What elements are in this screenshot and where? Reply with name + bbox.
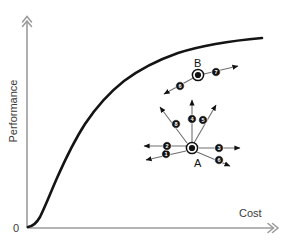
svg-text:5: 5: [201, 117, 204, 123]
point-label-b: B: [194, 57, 201, 69]
svg-text:3: 3: [217, 145, 220, 151]
badge-8: 8: [172, 120, 181, 129]
badge-7: 7: [212, 68, 221, 77]
x-axis-label: Cost: [239, 207, 262, 219]
axis-lines: [27, 22, 273, 228]
vector-arrow-6-at-a: [197, 152, 230, 166]
svg-text:7: 7: [214, 69, 217, 75]
point-marker-b: [192, 69, 203, 80]
svg-text:6: 6: [217, 157, 220, 163]
point-label-a: A: [194, 157, 201, 169]
performance-cost-figure: 1 2 3 4 5: [0, 0, 287, 246]
svg-text:1: 1: [164, 151, 167, 157]
badge-3: 3: [215, 144, 224, 153]
badge-2: 2: [163, 142, 172, 151]
performance-curve: [28, 38, 262, 227]
point-marker-a: [186, 142, 197, 153]
vector-arrow-7: [204, 66, 238, 74]
badge-6-at-a: 6: [215, 156, 224, 165]
origin-label: 0: [13, 222, 19, 234]
badge-6-at-b: 6: [176, 82, 185, 91]
vector-arrows-at-a: [144, 100, 240, 166]
badge-1: 1: [162, 150, 171, 159]
svg-text:2: 2: [165, 143, 168, 149]
badge-4: 4: [188, 115, 197, 124]
badge-5: 5: [199, 116, 208, 125]
y-axis-label: Performance: [7, 71, 19, 151]
svg-text:8: 8: [174, 121, 177, 127]
svg-text:6: 6: [178, 83, 181, 89]
